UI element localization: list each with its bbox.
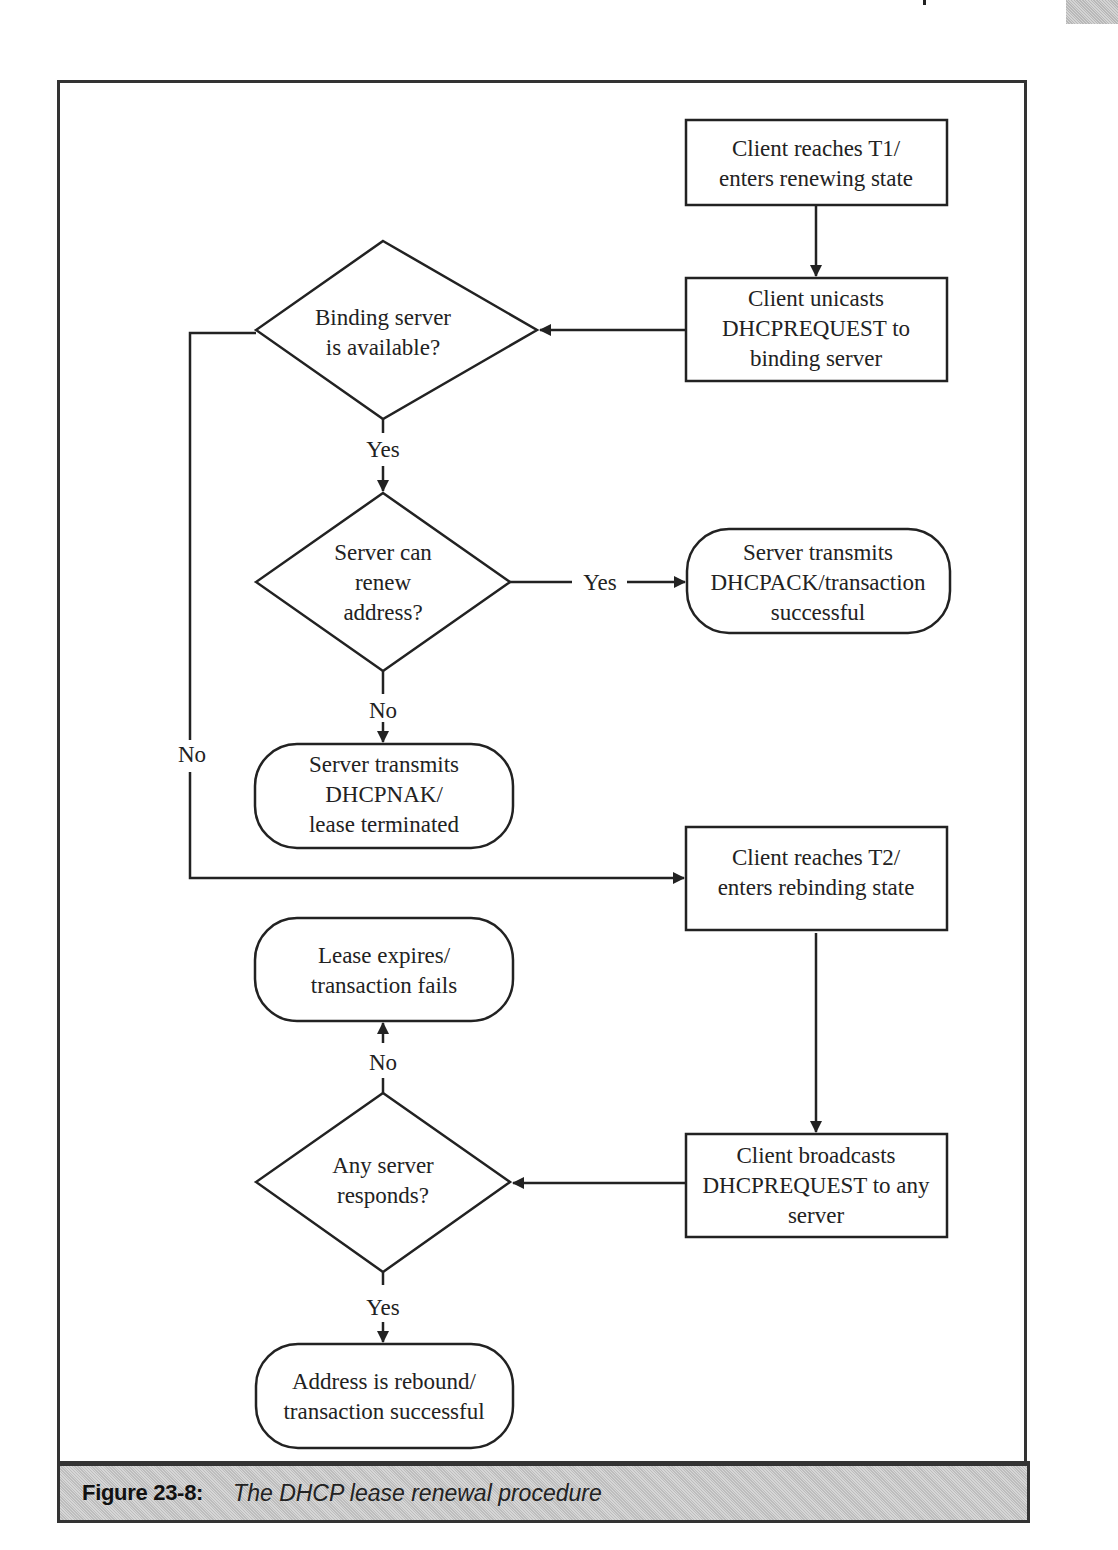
flowchart: Client reaches T1/enters renewing state … bbox=[0, 0, 1118, 1550]
figure-caption-bar: Figure 23-8: The DHCP lease renewal proc… bbox=[57, 1461, 1030, 1523]
node-broadcast-text: Client broadcastsDHCPREQUEST to anyserve… bbox=[702, 1143, 930, 1228]
node-can-renew-text: Server canrenewaddress? bbox=[334, 540, 432, 625]
node-binding-available-text: Binding serveris available? bbox=[315, 305, 451, 360]
node-expires-rounded bbox=[255, 918, 513, 1021]
edge-label-binding-no: No bbox=[178, 742, 206, 767]
node-nak-text: Server transmitsDHCPNAK/lease terminated bbox=[309, 752, 460, 837]
node-rebound-text: Address is rebound/transaction successfu… bbox=[283, 1369, 484, 1424]
edge-label-any-no: No bbox=[369, 1050, 397, 1075]
node-any-responds-text: Any serverresponds? bbox=[332, 1153, 434, 1208]
edge-binding-no-upper bbox=[190, 333, 256, 740]
edge-label-binding-yes: Yes bbox=[366, 437, 400, 462]
node-ack-text: Server transmitsDHCPACK/transactionsucce… bbox=[710, 540, 926, 625]
node-t1-box bbox=[686, 120, 947, 205]
node-unicast-text: Client unicastsDHCPREQUEST tobinding ser… bbox=[722, 286, 910, 371]
edge-label-renew-yes: Yes bbox=[583, 570, 617, 595]
edge-label-renew-no: No bbox=[369, 698, 397, 723]
node-binding-available-diamond bbox=[256, 241, 537, 419]
node-t2-text: Client reaches T2/enters rebinding state bbox=[718, 845, 915, 900]
node-rebound-rounded bbox=[256, 1344, 513, 1448]
edge-label-any-yes: Yes bbox=[366, 1295, 400, 1320]
node-expires-text: Lease expires/transaction fails bbox=[311, 943, 457, 998]
node-t1-text: Client reaches T1/enters renewing state bbox=[719, 136, 913, 191]
figure-number: Figure 23-8: bbox=[82, 1480, 203, 1506]
figure-caption: The DHCP lease renewal procedure bbox=[233, 1480, 602, 1507]
